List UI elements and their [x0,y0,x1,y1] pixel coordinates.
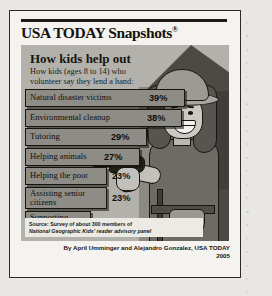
registered-trademark-symbol: ® [172,25,178,34]
bar-5: Helping the poor [25,167,107,185]
bleed-line: r [246,110,272,124]
bar-label: Natural disaster victims [30,93,112,102]
bar-row: Tutoring29% [25,128,185,146]
bleed-line: i [246,286,272,295]
bleed-line: n [246,151,272,165]
bar-value: 27% [104,152,122,162]
bar-label: Environmental cleanup [30,113,110,122]
source-line-2: National Geographic Kids' reader advisor… [29,228,199,234]
bar-row: Natural disaster victims39% [25,89,185,107]
bleed-line: v [246,259,272,273]
bleed-line: y [246,43,272,57]
bar-row: Helping the poor23% [25,167,185,185]
bleed-line: d [246,205,272,219]
chart-subtitle: How kids (ages 8 to 14) who volunteer sa… [30,67,150,86]
bar-row: Environmental cleanup38% [25,109,185,127]
chart-panel: How kids help out How kids (ages 8 to 14… [21,45,229,241]
bar-row: Helping animals27% [25,148,185,166]
bar-label: Tutoring [30,132,60,141]
bar-value: 23% [112,193,130,203]
bar-label: Helping the poor [30,171,88,180]
byline: By April Umminger and Alejandro Gonzalez… [64,244,230,260]
bleed-line: e [246,56,272,70]
bleed-line: a [246,218,272,232]
byline-year: 2005 [64,252,230,260]
bleed-line: e [246,178,272,192]
bleed-line: i [246,83,272,97]
bleed-line: l [246,232,272,246]
bar-value: 38% [147,113,165,123]
bleed-line: t [246,16,272,30]
bleed-line: p [246,29,272,43]
bleed-line: o [246,124,272,138]
bleed-line: ’ [246,2,272,16]
bar-chart: Natural disaster victims39%Environmental… [25,89,185,235]
girl-brow-right [187,106,194,108]
byline-authors: By April Umminger and Alejandro Gonzalez… [64,244,230,252]
bleed-line: e [246,70,272,84]
bar-row: Assisting senior citizens23% [25,187,185,210]
bar-label: Assisting senior citizens [30,189,85,208]
bar-label: Helping animals [30,152,87,161]
bar-6: Assisting senior citizens [25,187,107,210]
header-rule [21,19,227,22]
bar-value: 29% [111,132,129,142]
bleed-line: c [246,272,272,286]
bar-value: 39% [149,93,167,103]
bar-4: Helping animals [25,148,140,166]
bleed-line: a [246,97,272,111]
bleed-line: t [246,164,272,178]
logo-text: USA TODAY Snapshots [21,24,172,41]
usa-today-snapshots-logo: USA TODAY Snapshots® [21,24,178,42]
bleed-line: o [246,245,272,259]
bar-value: 23% [112,171,130,181]
page-title: How kids help out [30,51,131,67]
bleed-line: s [246,137,272,151]
bleed-line: h [246,191,272,205]
source-note: Source: Survey of about 300 members of N… [25,218,203,237]
girl-eye-right [188,111,193,115]
snapshot-card: USA TODAY Snapshots® [9,10,241,278]
page-edge-text-bleed: ’tpyeeiarosntehdalovci [246,2,272,294]
